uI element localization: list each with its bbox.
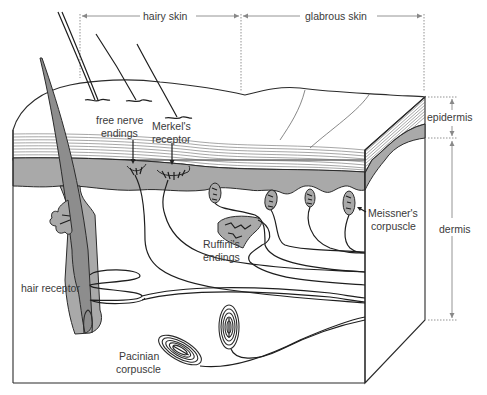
hairy-skin-label: hairy skin (143, 10, 188, 22)
layer-dimension-markers (428, 97, 458, 320)
ruffinis-endings-label-line2: endings (203, 251, 240, 263)
pacinian-corpuscles (154, 305, 365, 371)
ruffinis-endings-label-line1: Ruffini's (203, 238, 240, 250)
free-nerve-endings-label-line2: endings (101, 127, 138, 139)
merkels-receptor-label-line1: Merkel's (152, 120, 191, 132)
pacinian-corpuscle-label-line1: Pacinian (119, 350, 159, 362)
merkels-receptor-label-line2: receptor (152, 133, 191, 145)
pacinian-corpuscle-label-line2: corpuscle (116, 363, 161, 375)
meissners-corpuscle-label-line2: corpuscle (371, 220, 416, 232)
dermis-label: dermis (439, 223, 471, 235)
meissners-corpuscle-label-line1: Meissner's (368, 207, 418, 219)
epidermis-label: epidermis (427, 111, 473, 123)
glabrous-skin-label: glabrous skin (305, 10, 367, 22)
hair-shafts (58, 12, 192, 119)
hair-receptor-label: hair receptor (21, 282, 80, 294)
skin-receptor-diagram: hairy skin glabrous skin epidermis dermi… (0, 0, 487, 395)
hair-receptor-coil (90, 270, 365, 304)
free-nerve-endings-label-line1: free nerve (96, 114, 143, 126)
